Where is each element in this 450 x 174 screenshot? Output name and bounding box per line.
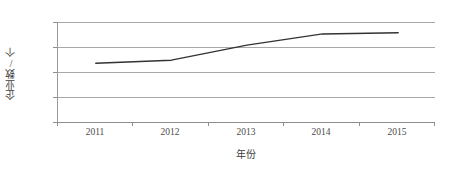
series-line-enterprise-count <box>58 22 436 122</box>
x-tick-mark <box>359 122 360 126</box>
x-tick-label-2014: 2014 <box>291 127 351 138</box>
y-axis-title: 企业数/个 <box>4 28 18 118</box>
x-tick-label-2012: 2012 <box>140 127 200 138</box>
x-axis-line <box>57 122 435 123</box>
x-tick-mark <box>434 122 435 126</box>
x-tick-label-2015: 2015 <box>367 127 427 138</box>
x-tick-mark <box>283 122 284 126</box>
x-tick-label-2013: 2013 <box>216 127 276 138</box>
x-tick-label-2011: 2011 <box>65 127 125 138</box>
plot-area <box>57 22 435 122</box>
x-tick-mark <box>208 122 209 126</box>
x-tick-mark <box>57 122 58 126</box>
x-tick-mark <box>132 122 133 126</box>
chart-figure: 800 600 400 200 0 企业数/个 2011 2012 2013 2… <box>0 0 450 174</box>
x-axis-title: 年份 <box>57 146 435 161</box>
